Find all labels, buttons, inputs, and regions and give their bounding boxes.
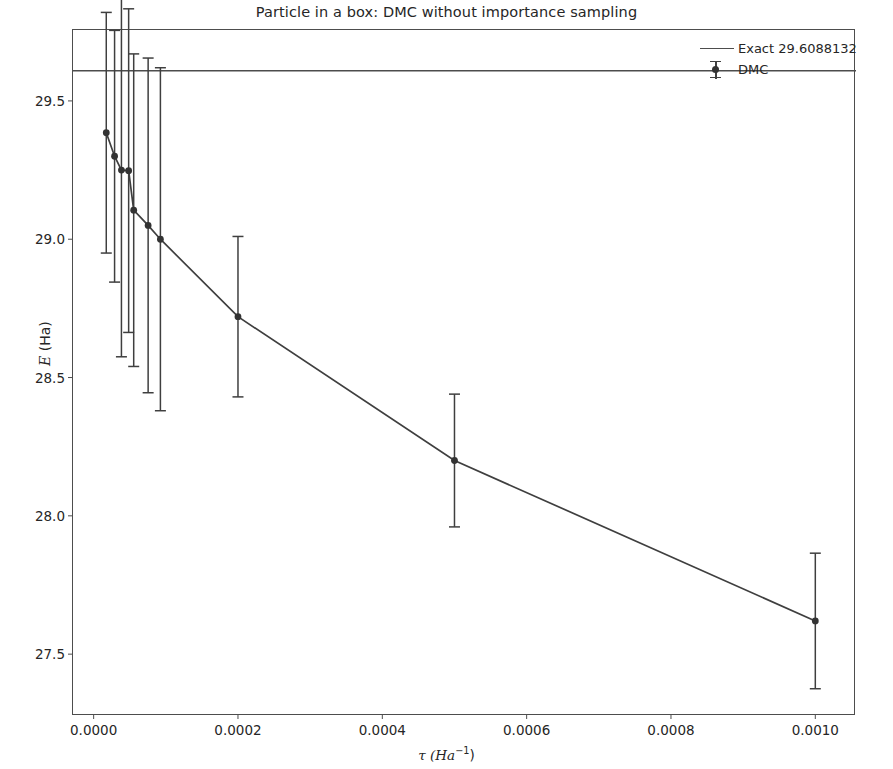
dmc-errorbar [155, 68, 166, 411]
x-tick-label: 0.0010 [770, 722, 860, 738]
dmc-errorbar [128, 54, 139, 367]
x-tick-label: 0.0002 [193, 722, 283, 738]
dmc-line [106, 133, 815, 621]
dmc-marker [130, 207, 137, 214]
y-tick-label: 29.5 [9, 93, 65, 109]
legend-entry-exact: Exact 29.6088132 [696, 38, 880, 59]
dmc-errorbar [101, 12, 112, 253]
dmc-marker [812, 618, 819, 625]
dmc-marker [111, 153, 118, 160]
y-tick-label: 27.5 [9, 646, 65, 662]
legend-entry-dmc: DMC [696, 59, 880, 80]
dmc-marker [145, 222, 152, 229]
dmc-errorbar [109, 30, 120, 282]
dmc-marker [451, 457, 458, 464]
x-tick-label: 0.0004 [337, 722, 427, 738]
x-tick-label: 0.0000 [49, 722, 139, 738]
legend-line-icon [696, 39, 738, 59]
legend-label-exact: Exact 29.6088132 [738, 41, 857, 56]
dmc-errorbar [116, 0, 127, 357]
legend-label-dmc: DMC [738, 62, 768, 77]
y-tick-label: 28.0 [9, 508, 65, 524]
chart-legend: Exact 29.6088132 DMC [690, 36, 886, 84]
y-tick-label: 28.5 [9, 370, 65, 386]
dmc-errorbar [449, 394, 460, 527]
figure-canvas: Particle in a box: DMC without importanc… [0, 0, 893, 769]
y-tick-label: 29.0 [9, 231, 65, 247]
dmc-marker [125, 167, 132, 174]
dmc-errorbar [143, 58, 154, 393]
x-tick-label: 0.0006 [482, 722, 572, 738]
dmc-marker [235, 313, 242, 320]
legend-errorbar-icon [696, 60, 738, 80]
axis-ticks [68, 101, 815, 719]
chart-svg [0, 0, 893, 769]
dmc-marker [118, 167, 125, 174]
dmc-errorbar [810, 553, 821, 689]
x-tick-label: 0.0008 [626, 722, 716, 738]
dmc-errorbar [232, 236, 243, 396]
data-layer [72, 0, 856, 689]
dmc-marker [157, 236, 164, 243]
dmc-marker [103, 129, 110, 136]
